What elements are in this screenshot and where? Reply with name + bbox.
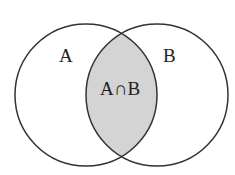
set-b-label: B bbox=[163, 45, 176, 66]
venn-diagram: A B A∩B bbox=[0, 0, 235, 175]
set-a-label: A bbox=[59, 45, 73, 66]
intersection-label: A∩B bbox=[100, 78, 140, 99]
